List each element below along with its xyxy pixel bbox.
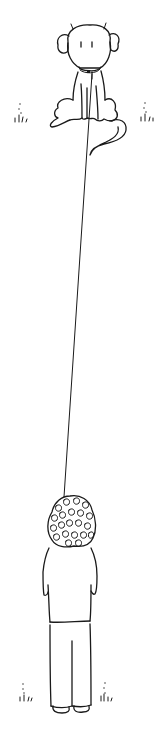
illustration-canvas <box>0 0 165 731</box>
collar-buckle <box>87 70 90 73</box>
person-trousers <box>50 624 91 708</box>
dog-head <box>58 23 119 68</box>
grass-tuft-top-left <box>15 103 27 122</box>
person-curly-hair <box>48 496 96 547</box>
grass-tuft-top-right <box>141 102 153 121</box>
dog-body <box>50 71 126 155</box>
person-shirt <box>43 548 97 622</box>
grass-tuft-bottom-left <box>20 683 32 701</box>
grass-tuft-bottom-right <box>101 682 112 701</box>
person <box>43 496 97 713</box>
dog-walk-drawing <box>0 0 165 731</box>
leash <box>64 74 92 497</box>
dog-collar <box>79 67 101 79</box>
